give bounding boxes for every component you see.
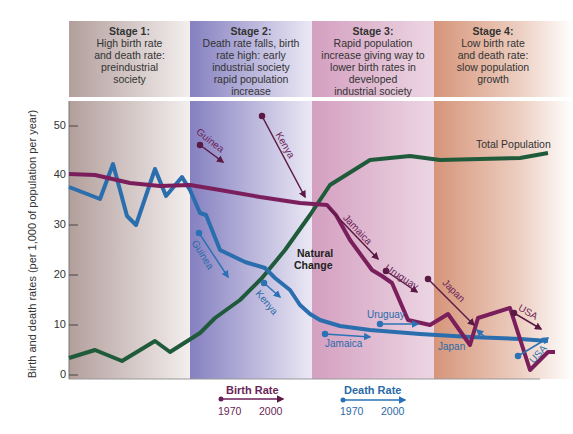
stage-1-region xyxy=(69,101,190,379)
y-tick-label: 30 xyxy=(50,218,66,230)
death-legend-year-start: 1970 xyxy=(340,405,363,417)
stage-1-line: society xyxy=(69,73,190,85)
birth-legend-year-start: 1970 xyxy=(218,405,241,417)
death-label-jamaica: Jamaica xyxy=(325,338,362,349)
stage-3-line: lower birth rates in xyxy=(312,61,434,73)
stage-2-line: Death rate falls, birth xyxy=(190,37,312,49)
stage-2-line: industrial society xyxy=(190,61,312,73)
stage-1-line: High birth rate xyxy=(69,37,190,49)
stage-4-line: Low birth rate xyxy=(434,37,552,49)
stage-4-line: growth xyxy=(434,73,552,85)
stage-3-title: Stage 3: xyxy=(312,25,434,37)
stage-2-header: Stage 2: Death rate falls, birth rate hi… xyxy=(190,21,312,97)
stage-3-line: Rapid population xyxy=(312,37,434,49)
death-rate-legend-title: Death Rate xyxy=(344,384,401,396)
stage-4-header: Stage 4: Low birth rate and death rate: … xyxy=(434,21,552,97)
y-tick-label: 50 xyxy=(50,119,66,131)
natural-change-label-line1: Natural xyxy=(297,247,333,259)
y-tick-label: 10 xyxy=(50,318,66,330)
stage-4-line: slow population xyxy=(434,61,552,73)
stage-3-line: increase giving way to xyxy=(312,49,434,61)
birth-legend-year-end: 2000 xyxy=(259,405,282,417)
death-label-uruguay: Uruguay xyxy=(367,309,405,320)
y-axis-title: Birth and death rates (per 1,000 of popu… xyxy=(26,94,38,394)
death-legend-year-end: 2000 xyxy=(381,405,404,417)
y-tick-label: 40 xyxy=(50,168,66,180)
stage-3-header: Stage 3: Rapid population increase givin… xyxy=(312,21,434,97)
total-population-label: Total Population xyxy=(476,138,551,150)
stage-1-line: preindustrial xyxy=(69,61,190,73)
stage-1-line: and death rate: xyxy=(69,49,190,61)
stage-3-line: industrial society xyxy=(312,85,434,97)
stage-3-line: developed xyxy=(312,73,434,85)
death-label-japan: Japan xyxy=(438,341,465,352)
stage-4-line: and death rate: xyxy=(434,49,552,61)
stage-4-title: Stage 4: xyxy=(434,25,552,37)
y-tick-label: 0 xyxy=(50,368,66,380)
stage-1-title: Stage 1: xyxy=(69,25,190,37)
stage-1-header: Stage 1: High birth rate and death rate:… xyxy=(69,21,190,97)
death-legend-start-dot xyxy=(341,398,346,403)
y-tick-label: 20 xyxy=(50,268,66,280)
stage-2-title: Stage 2: xyxy=(190,25,312,37)
stage-2-line: rapid population xyxy=(190,73,312,85)
stage-2-line: increase xyxy=(190,85,312,97)
natural-change-label-line2: Change xyxy=(294,259,333,271)
birth-legend-start-dot xyxy=(219,397,224,402)
birth-rate-legend-title: Birth Rate xyxy=(226,384,279,396)
stage-2-line: rate high: early xyxy=(190,49,312,61)
